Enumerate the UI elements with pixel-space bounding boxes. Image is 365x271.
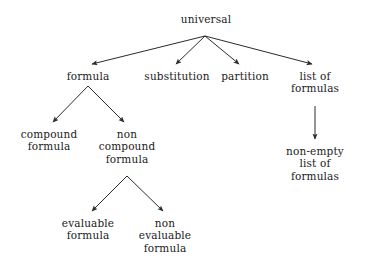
node-label-line: formula xyxy=(67,70,110,82)
node-label-line: non-empty xyxy=(286,145,344,157)
node-label-line: formula xyxy=(21,140,78,152)
node-label-line: evaluable xyxy=(139,229,191,241)
edge-universal-to-formula xyxy=(92,36,205,64)
node-non-evaluable-formula: nonevaluableformula xyxy=(139,217,191,254)
node-evaluable-formula: evaluableformula xyxy=(62,217,114,242)
edge-non-compound-to-non-evaluable xyxy=(127,176,163,211)
node-label-line: formulas xyxy=(291,82,339,94)
edge-non-compound-to-evaluable xyxy=(92,176,127,211)
node-label-line: substitution xyxy=(144,70,209,82)
node-label-line: compound xyxy=(99,140,156,152)
edge-universal-to-substitution xyxy=(176,36,205,64)
node-list-of-formulas: list offormulas xyxy=(291,70,339,95)
node-universal: universal xyxy=(181,13,231,25)
node-label-line: non xyxy=(99,128,156,140)
node-label-line: list of xyxy=(291,70,339,82)
tree-diagram: universalformulasubstitutionpartitionlis… xyxy=(0,0,365,271)
node-label-line: list of xyxy=(286,157,344,169)
node-label-line: partition xyxy=(221,70,269,82)
node-label-line: formula xyxy=(62,229,114,241)
node-label-line: evaluable xyxy=(62,217,114,229)
node-partition: partition xyxy=(221,70,269,82)
node-label-line: formulas xyxy=(286,170,344,182)
node-label-line: universal xyxy=(181,13,231,25)
node-non-compound-formula: noncompoundformula xyxy=(99,128,156,165)
node-label-line: non xyxy=(139,217,191,229)
node-label-line: compound xyxy=(21,128,78,140)
node-substitution: substitution xyxy=(144,70,209,82)
edge-formula-to-non-compound xyxy=(88,86,124,122)
edge-universal-to-list-of-formulas xyxy=(205,36,312,64)
node-formula: formula xyxy=(67,70,110,82)
node-label-line: formula xyxy=(99,153,156,165)
edge-formula-to-compound xyxy=(53,86,88,122)
node-non-empty-list: non-emptylist offormulas xyxy=(286,145,344,182)
node-compound-formula: compoundformula xyxy=(21,128,78,153)
node-label-line: formula xyxy=(139,242,191,254)
